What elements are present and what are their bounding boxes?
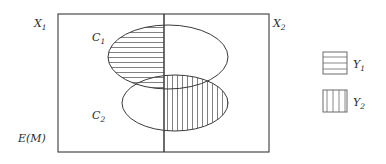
label-universe-em: E(M) [17,132,46,145]
label-x2: X2 [272,17,286,32]
label-x1: X1 [33,17,47,32]
legend-swatch-horizontal-hatch [323,52,347,74]
venn-diagram-figure: X1 X2 E(M) C1 C2 Y1 Y2 [0,0,386,164]
venn-diagram-canvas: X1 X2 E(M) C1 C2 Y1 Y2 [0,0,386,164]
legend-label-y1: Y1 [353,58,365,73]
legend-label-y2: Y2 [353,96,365,111]
legend-entry-y2: Y2 [323,90,365,112]
legend-swatch-vertical-hatch [323,90,347,112]
legend-entry-y1: Y1 [323,52,365,74]
legend: Y1 Y2 [323,52,365,112]
